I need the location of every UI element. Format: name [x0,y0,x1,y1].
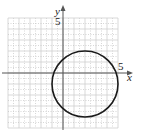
coordinate-plane: y 5 5 x [0,0,141,136]
y-tick-label-5: 5 [55,15,61,27]
y-axis-arrow-icon [61,5,66,11]
x-tick-label-5: 5 [118,60,124,72]
x-axis-label: x [126,71,132,83]
